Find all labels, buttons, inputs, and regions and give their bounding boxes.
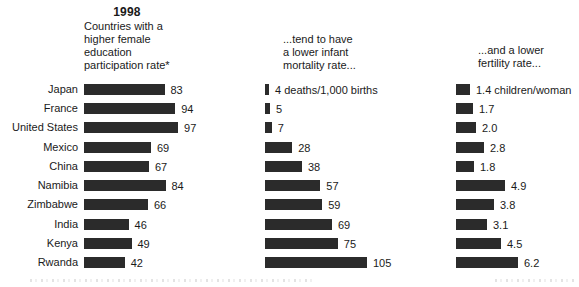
bar	[265, 219, 332, 230]
bar	[84, 103, 175, 114]
bar	[265, 238, 338, 249]
value-label: 7	[278, 123, 284, 134]
bar	[456, 199, 494, 210]
bar	[84, 161, 149, 172]
bar	[265, 84, 269, 95]
chart-title: 1998	[84, 5, 170, 19]
bar	[265, 161, 302, 172]
bar	[84, 142, 151, 153]
value-label: 4.5	[507, 239, 522, 250]
value-label: 42	[131, 258, 143, 269]
bar	[456, 122, 476, 133]
bar	[84, 219, 129, 230]
bar	[265, 142, 292, 153]
value-label: 94	[181, 104, 193, 115]
country-label: India	[0, 219, 78, 230]
value-label: 105	[373, 258, 391, 269]
bar	[265, 199, 322, 210]
bar	[456, 238, 501, 249]
value-label: 84	[172, 181, 184, 192]
bar	[84, 199, 148, 210]
value-label: 1.7	[479, 104, 494, 115]
bar	[84, 122, 178, 133]
value-label: 97	[184, 123, 196, 134]
value-label: 2.8	[490, 143, 505, 154]
bar	[456, 180, 505, 191]
footnote-cropped-text	[30, 279, 312, 282]
value-label: 46	[135, 220, 147, 231]
bar	[84, 257, 125, 268]
country-label: Mexico	[0, 142, 78, 153]
value-label: 28	[298, 143, 310, 154]
value-label: 1.8	[480, 162, 495, 173]
value-label: 75	[344, 239, 356, 250]
bar	[456, 161, 474, 172]
bar	[84, 180, 166, 191]
value-label: 66	[154, 200, 166, 211]
footnote-cropped-text	[495, 279, 575, 282]
bar	[265, 122, 272, 133]
country-label: Namibia	[0, 180, 78, 191]
bar	[84, 238, 132, 249]
value-label: 4.9	[511, 181, 526, 192]
value-label: 3.1	[493, 220, 508, 231]
value-label: 4 deaths/1,000 births	[275, 85, 378, 96]
value-label: 49	[138, 239, 150, 250]
panel-header-education: Countries with a higher female education…	[84, 20, 196, 72]
value-label: 69	[338, 220, 350, 231]
value-label: 3.8	[500, 200, 515, 211]
bar	[456, 219, 487, 230]
chart: 1998 Countries with a higher female educ…	[0, 0, 579, 287]
country-label: France	[0, 103, 78, 114]
country-label: United States	[0, 122, 78, 133]
panel-header-fertility: ...and a lower fertility rate...	[478, 44, 573, 70]
bar	[456, 257, 518, 268]
value-label: 5	[276, 104, 282, 115]
bar	[456, 103, 473, 114]
bar	[456, 84, 470, 95]
bar	[265, 103, 270, 114]
value-label: 2.0	[482, 123, 497, 134]
country-label: Zimbabwe	[0, 199, 78, 210]
bar	[265, 180, 320, 191]
value-label: 69	[157, 143, 169, 154]
country-label: Rwanda	[0, 257, 78, 268]
bar	[265, 257, 367, 268]
bar	[84, 84, 165, 95]
country-label: Kenya	[0, 238, 78, 249]
value-label: 57	[326, 181, 338, 192]
panel-header-infant-mortality: ...tend to have a lower infant mortality…	[283, 33, 383, 72]
value-label: 1.4 children/woman	[476, 85, 571, 96]
country-label: China	[0, 161, 78, 172]
bar	[456, 142, 484, 153]
value-label: 59	[328, 200, 340, 211]
value-label: 83	[171, 85, 183, 96]
value-label: 38	[308, 162, 320, 173]
value-label: 67	[155, 162, 167, 173]
value-label: 6.2	[524, 258, 539, 269]
country-label: Japan	[0, 84, 78, 95]
